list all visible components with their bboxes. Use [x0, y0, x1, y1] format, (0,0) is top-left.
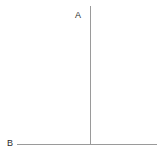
vertical-segment-label: A	[75, 11, 81, 20]
horizontal-segment-label: B	[7, 139, 13, 148]
diagram-canvas: A B	[0, 0, 164, 158]
line-diagram	[0, 0, 164, 158]
